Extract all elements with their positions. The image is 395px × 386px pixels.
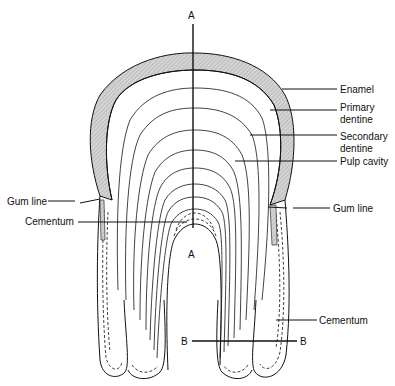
cementum-right-band — [270, 205, 277, 245]
enamel-layer — [90, 53, 294, 205]
section-marker-b-right: B — [300, 336, 307, 347]
label-cementum-right: Cementum — [319, 315, 368, 326]
label-gum-line-right: Gum line — [333, 203, 373, 214]
section-marker-b-left: B — [181, 336, 188, 347]
cementum-left-band — [100, 200, 105, 240]
label-primary-dentine-line1: Primary — [340, 102, 374, 113]
right-root — [217, 200, 289, 379]
label-secondary-dentine-line2: dentine — [340, 143, 373, 154]
section-marker-a-top: A — [188, 10, 195, 21]
tooth-diagram: A A B B Enamel Primary dentine Secondary… — [0, 0, 395, 386]
label-pulp-cavity: Pulp cavity — [340, 156, 388, 167]
label-secondary-dentine-line1: Secondary — [340, 131, 388, 142]
left-root — [97, 196, 165, 379]
label-cementum-left: Cementum — [25, 216, 74, 227]
label-gum-line-left: Gum line — [7, 196, 47, 207]
label-enamel: Enamel — [340, 84, 374, 95]
label-primary-dentine-line2: dentine — [340, 114, 373, 125]
root-fork — [167, 224, 221, 370]
section-marker-a-bottom: A — [188, 249, 195, 260]
